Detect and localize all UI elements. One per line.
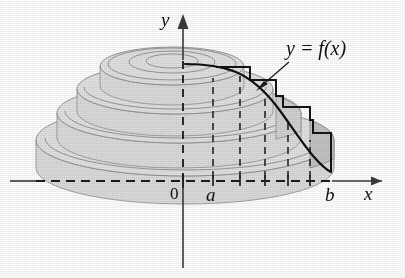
figure-container: y x 0 a b y = f(x): [0, 0, 405, 278]
y-axis-arrowhead: [178, 14, 189, 29]
origin-label: 0: [170, 184, 179, 203]
point-a-label: a: [206, 184, 216, 205]
y-axis-label: y: [159, 9, 170, 30]
solid-of-revolution-diagram: y x 0 a b y = f(x): [0, 0, 405, 278]
point-b-label: b: [325, 184, 335, 205]
function-label: y = f(x): [284, 37, 346, 60]
x-axis-arrowhead: [371, 177, 382, 186]
disk-layer-4-top: [100, 47, 244, 105]
x-axis-label: x: [363, 183, 373, 204]
